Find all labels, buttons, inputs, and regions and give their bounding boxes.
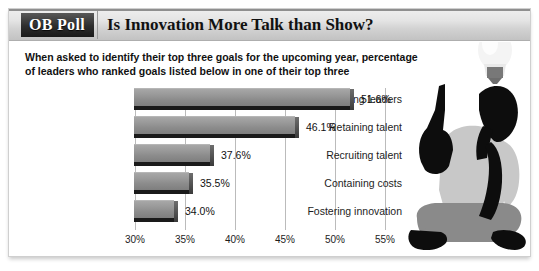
bar xyxy=(134,144,210,166)
x-tick-label: 45% xyxy=(265,234,305,245)
bar-category-label: Fostering innovation xyxy=(291,204,409,218)
bar xyxy=(134,200,174,222)
bar-shadow xyxy=(134,162,210,166)
bar-shadow xyxy=(134,190,189,194)
x-tick-label: 35% xyxy=(165,234,205,245)
bar-row: Fostering innovation34.0% xyxy=(9,200,409,226)
x-tick-label: 50% xyxy=(315,234,355,245)
x-tick-label: 30% xyxy=(115,234,155,245)
bar-end-cap xyxy=(350,89,354,110)
bar-row: Retaining talent46.1% xyxy=(9,116,409,142)
bar-value-label: 37.6% xyxy=(221,149,251,161)
bar-fill xyxy=(134,88,350,106)
bar-fill xyxy=(134,144,210,162)
bar-row: Recruiting talent37.6% xyxy=(9,144,409,170)
poll-header: OB Poll Is Innovation More Talk than Sho… xyxy=(9,9,531,41)
x-tick-label: 40% xyxy=(215,234,255,245)
bar-fill xyxy=(134,200,174,218)
bar-row: Containing costs35.5% xyxy=(9,172,409,198)
bar xyxy=(134,88,350,110)
bar-shadow xyxy=(134,134,295,138)
bar-end-cap xyxy=(189,173,193,194)
bar xyxy=(134,172,189,194)
bar-value-label: 34.0% xyxy=(185,205,215,217)
poll-body: When asked to identify their top three g… xyxy=(9,42,531,257)
bar-end-cap xyxy=(210,145,214,166)
bar-value-label: 46.1% xyxy=(306,121,336,133)
bar-value-label: 51.6% xyxy=(361,93,391,105)
bar xyxy=(134,116,295,138)
bar-end-cap xyxy=(174,201,178,222)
page-title: Is Innovation More Talk than Show? xyxy=(107,14,374,36)
bar-row: Developing leaders51.6% xyxy=(9,88,409,114)
header-divider xyxy=(97,11,98,39)
bar-end-cap xyxy=(295,117,299,138)
bar-chart: Developing leaders51.6%Retaining talent4… xyxy=(9,84,409,254)
ob-poll-card: OB Poll Is Innovation More Talk than Sho… xyxy=(8,8,531,257)
x-tick-label: 55% xyxy=(365,234,405,245)
bar-fill xyxy=(134,172,189,190)
question-description: When asked to identify their top three g… xyxy=(25,50,425,78)
seated-person-silhouette xyxy=(405,70,531,257)
bar-value-label: 35.5% xyxy=(200,177,230,189)
poll-badge: OB Poll xyxy=(21,13,94,37)
bar-fill xyxy=(134,116,295,134)
chart-axis-baseline xyxy=(127,230,389,231)
bar-shadow xyxy=(134,218,174,222)
bar-category-label: Containing costs xyxy=(291,176,409,190)
bar-shadow xyxy=(134,106,350,110)
illustration xyxy=(405,42,531,257)
bar-category-label: Recruiting talent xyxy=(291,148,409,162)
